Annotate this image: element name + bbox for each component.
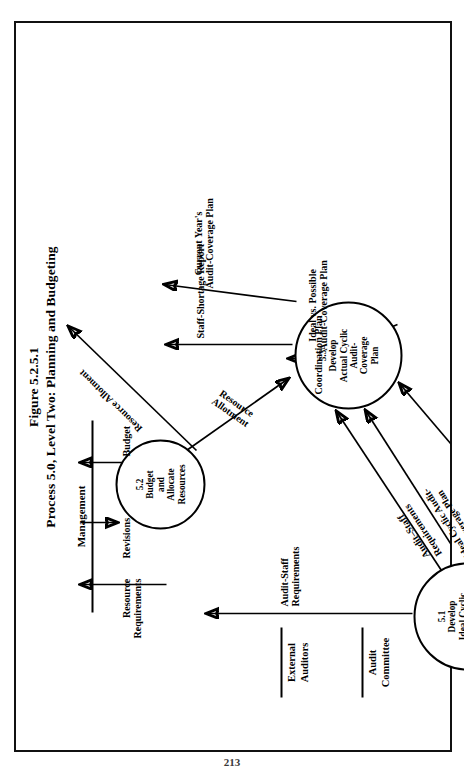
entity-external-auditors-label: External Auditors bbox=[285, 627, 310, 697]
diagram-canvas: Figure 5.2.5.1 Process 5.0, Level Two: P… bbox=[16, 23, 450, 750]
flow-label-revisions: Revisions bbox=[120, 517, 131, 558]
process-5-1-name: Develop Ideal Cyclic Audit- Coverage Pla… bbox=[446, 592, 464, 639]
figure-frame: Figure 5.2.5.1 Process 5.0, Level Two: P… bbox=[14, 21, 452, 752]
entity-external-auditors[interactable]: External Auditors bbox=[280, 627, 310, 697]
flow-current-years-plan-arrow bbox=[164, 284, 296, 301]
process-5-1-number: 5.1 bbox=[436, 610, 446, 622]
entity-audit-committee-bar bbox=[361, 627, 363, 697]
process-5-3-name: Develop Actual Cyclic Audit- Coverage Pl… bbox=[327, 328, 379, 381]
entity-management-label: Management bbox=[74, 420, 87, 612]
process-5-2-name: Budget and Allocate Resources bbox=[144, 464, 186, 504]
flow-label-audit-staff-requirements-vertical: Audit-Staff Requirements bbox=[278, 546, 301, 606]
page-number: 213 bbox=[0, 756, 464, 768]
entity-management[interactable]: Management bbox=[74, 420, 93, 612]
entity-external-auditors-bar bbox=[280, 627, 282, 697]
flow-label-current-years-audit-coverage-plan: Current Year's Audit-Coverage Plan bbox=[192, 198, 215, 288]
entity-audit-committee[interactable]: Audit Committee bbox=[361, 627, 391, 697]
process-5-2-number: 5.2 bbox=[134, 478, 144, 490]
flow-label-ideal-vs-possible-audit-coverage-plan: Ideal vs. Possible Audit-Coverage Plan bbox=[306, 260, 329, 350]
entity-audit-committee-label: Audit Committee bbox=[366, 627, 391, 697]
flow-label-resource-requirements: Resource Requirements bbox=[120, 578, 143, 638]
flow-label-budget: Budget bbox=[120, 425, 131, 456]
entity-management-bar bbox=[91, 420, 93, 612]
